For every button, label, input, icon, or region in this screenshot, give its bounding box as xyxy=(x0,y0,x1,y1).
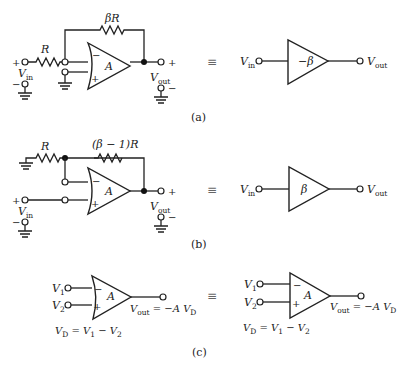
eq-vout-label: Vout xyxy=(367,183,387,198)
vin-minus-terminal xyxy=(22,219,28,225)
opamp-gain-label: A xyxy=(303,289,312,302)
eq-vout-terminal xyxy=(357,58,363,64)
v1-terminal xyxy=(65,285,71,291)
eq-vin-terminal xyxy=(256,186,262,192)
vd-equation: VD = V1 − V2 xyxy=(243,322,310,336)
opamp-equivalence-diagram: + R βR − + A + Vout − Vin − ≡ Vin xyxy=(0,0,403,367)
feedback-resistor-label: (β − 1)R xyxy=(92,138,138,151)
v2-terminal xyxy=(257,299,263,305)
ground-icon xyxy=(19,163,33,169)
output-node xyxy=(141,188,147,194)
noninverting-sign: + xyxy=(93,301,101,312)
eq-vout-label: Vout xyxy=(367,55,387,70)
v1-label: V1 xyxy=(52,282,65,297)
noninv-terminal xyxy=(62,197,68,203)
equivalence-sign: ≡ xyxy=(207,183,217,197)
vout-plus-sign: + xyxy=(168,57,176,68)
gain-block-label: −β xyxy=(298,55,314,68)
ground-icon xyxy=(154,91,168,103)
equivalence-sign: ≡ xyxy=(207,289,217,303)
vout-plus-sign: + xyxy=(168,186,176,197)
eq-vin-label: Vin xyxy=(240,55,255,70)
inverting-sign: − xyxy=(94,284,102,295)
input-resistor-r xyxy=(28,58,62,66)
gain-block-label: β xyxy=(300,183,307,196)
v1-label: V1 xyxy=(244,278,257,293)
noninverting-sign: + xyxy=(91,198,99,209)
eq-vout-terminal xyxy=(357,186,363,192)
eq-vin-terminal xyxy=(256,58,262,64)
feedback-resistor-label: βR xyxy=(104,12,120,25)
vout-minus-terminal xyxy=(158,85,164,91)
vout-terminal xyxy=(158,188,164,194)
noninverting-sign: + xyxy=(292,298,300,309)
vout-terminal xyxy=(358,293,364,299)
vout-equation: Vout = −A VD xyxy=(130,303,196,317)
output-node xyxy=(141,59,147,65)
caption-c: (c) xyxy=(192,346,207,359)
inverting-sign: − xyxy=(92,176,100,187)
v2-terminal xyxy=(65,302,71,308)
vout-terminal xyxy=(160,294,166,300)
panel-c: V1 V2 − + A Vout = −A VD VD = V1 − V2 ≡ … xyxy=(52,273,396,359)
inverting-sign: − xyxy=(92,50,100,61)
feedback-network xyxy=(26,154,144,191)
equivalence-sign: ≡ xyxy=(207,55,217,69)
input-resistor-label: R xyxy=(40,43,49,56)
vin-minus-sign: − xyxy=(12,217,20,228)
v2-label: V2 xyxy=(52,299,65,314)
vin-minus-terminal xyxy=(22,81,28,87)
vout-minus-sign: − xyxy=(168,83,176,94)
ground-resistor-label: R xyxy=(40,140,49,153)
v2-label: V2 xyxy=(244,296,257,311)
opamp-gain-label: A xyxy=(104,60,113,73)
vin-terminal xyxy=(22,59,28,65)
vout-equation: Vout = −A VD xyxy=(330,301,396,315)
vin-terminal xyxy=(22,197,28,203)
noninv-terminal xyxy=(62,69,68,75)
eq-vin-label: Vin xyxy=(240,183,255,198)
vout-minus-terminal xyxy=(158,214,164,220)
vin-minus-sign: − xyxy=(12,79,20,90)
vout-minus-sign: − xyxy=(168,212,176,223)
ground-icon xyxy=(58,75,72,89)
inverting-node xyxy=(62,179,68,185)
vd-equation: VD = V1 − V2 xyxy=(55,325,122,339)
gain-block-triangle xyxy=(289,167,329,211)
ground-icon xyxy=(154,220,168,232)
v1-terminal xyxy=(257,281,263,287)
panel-b: R (β − 1)R + − + A + Vout − Vin − ≡ xyxy=(12,138,387,251)
caption-b: (b) xyxy=(191,238,207,251)
inverting-node xyxy=(62,59,68,65)
inverting-sign: − xyxy=(293,280,301,291)
panel-a: + R βR − + A + Vout − Vin − ≡ Vin xyxy=(12,12,387,124)
opamp-gain-label: A xyxy=(104,185,113,198)
noninverting-sign: + xyxy=(91,73,99,84)
caption-a: (a) xyxy=(191,111,206,124)
vout-terminal xyxy=(158,59,164,65)
opamp-gain-label: A xyxy=(106,290,115,303)
